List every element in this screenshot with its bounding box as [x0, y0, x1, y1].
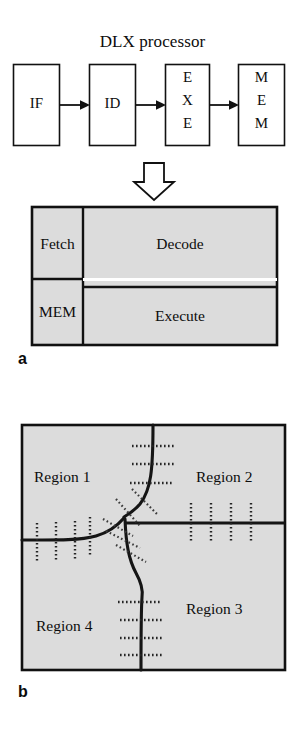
pipeline-stage-label-mem: M E M — [238, 70, 285, 139]
panel-caption-a: a — [18, 350, 27, 368]
pipeline-stage-label-exe-line-3: E — [165, 116, 210, 139]
floorplan-block-label-decode: Decode — [83, 236, 277, 252]
floorplan-diagram — [32, 207, 277, 345]
region-label-region-4: Region 4 — [36, 618, 92, 634]
pipeline-stage-label-exe: E X E — [165, 70, 210, 139]
figure-root: DLX processor IF ID E X E M E M Fetch De… — [0, 0, 305, 740]
transform-down-arrow-icon — [134, 163, 174, 200]
pipeline-stage-label-mem-line-2: E — [238, 93, 285, 116]
page-title: DLX processor — [0, 33, 305, 50]
pipeline-stage-label-if: IF — [13, 96, 60, 111]
floorplan-block-label-execute: Execute — [83, 308, 277, 324]
region-label-region-1: Region 1 — [34, 469, 90, 485]
panel-caption-b: b — [18, 683, 28, 701]
pipeline-stage-label-exe-line-1: E — [165, 70, 210, 93]
floorplan-block-label-fetch: Fetch — [32, 236, 83, 252]
pipeline-connector-arrow-1 — [60, 100, 90, 110]
pipeline-stage-label-mem-line-1: M — [238, 70, 285, 93]
region-label-region-3: Region 3 — [186, 601, 242, 617]
region-label-region-2: Region 2 — [196, 469, 252, 485]
pipeline-stage-label-id: ID — [89, 96, 136, 111]
pipeline-stage-label-mem-line-3: M — [238, 116, 285, 139]
pipeline-stage-label-exe-line-2: X — [165, 93, 210, 116]
floorplan-outer-frame — [32, 207, 277, 345]
floorplan-block-label-mem: MEM — [32, 304, 83, 320]
pipeline-connector-arrow-2 — [136, 100, 166, 110]
pipeline-connector-arrow-3 — [210, 100, 239, 110]
